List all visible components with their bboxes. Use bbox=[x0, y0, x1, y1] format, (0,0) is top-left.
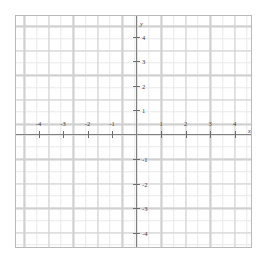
y-axis-label: y bbox=[140, 20, 143, 27]
y-tick-label: -3 bbox=[142, 205, 147, 212]
y-tick-mark bbox=[133, 61, 140, 62]
y-tick-mark bbox=[133, 233, 140, 234]
x-tick-mark bbox=[39, 131, 40, 138]
minor-gridlines bbox=[16, 16, 251, 247]
x-tick-mark bbox=[186, 131, 187, 138]
x-tick-mark bbox=[63, 131, 64, 138]
y-tick-mark bbox=[133, 208, 140, 209]
y-tick-mark bbox=[133, 184, 140, 185]
y-tick-label: 4 bbox=[142, 33, 145, 40]
y-tick-label: -1 bbox=[142, 156, 147, 163]
y-tick-mark bbox=[133, 159, 140, 160]
y-axis-line bbox=[136, 16, 137, 247]
y-tick-label: 3 bbox=[142, 58, 145, 65]
y-tick-label: 1 bbox=[142, 107, 145, 114]
y-tick-mark bbox=[133, 86, 140, 87]
x-tick-mark bbox=[112, 131, 113, 138]
x-axis-label: x bbox=[248, 127, 251, 134]
x-tick-label: -1 bbox=[109, 120, 114, 127]
major-gridlines bbox=[16, 16, 251, 247]
x-tick-label: 1 bbox=[159, 120, 162, 127]
x-tick-mark bbox=[88, 131, 89, 138]
y-tick-mark bbox=[133, 37, 140, 38]
x-tick-label: -2 bbox=[85, 120, 90, 127]
y-tick-label: -2 bbox=[142, 180, 147, 187]
x-tick-mark bbox=[210, 131, 211, 138]
x-tick-mark bbox=[161, 131, 162, 138]
x-tick-label: 3 bbox=[208, 120, 211, 127]
y-tick-label: -4 bbox=[142, 229, 147, 236]
plot-frame: -4-3-2-11234 4321-1-2-3-4 x y bbox=[15, 15, 252, 248]
x-tick-label: 2 bbox=[184, 120, 187, 127]
x-tick-label: 4 bbox=[233, 120, 236, 127]
x-tick-label: -4 bbox=[36, 120, 41, 127]
x-axis-line bbox=[16, 134, 251, 135]
y-tick-mark bbox=[133, 110, 140, 111]
y-tick-label: 2 bbox=[142, 82, 145, 89]
x-tick-label: -3 bbox=[60, 120, 65, 127]
x-tick-mark bbox=[235, 131, 236, 138]
coordinate-plane-figure: -4-3-2-11234 4321-1-2-3-4 x y bbox=[0, 0, 269, 260]
